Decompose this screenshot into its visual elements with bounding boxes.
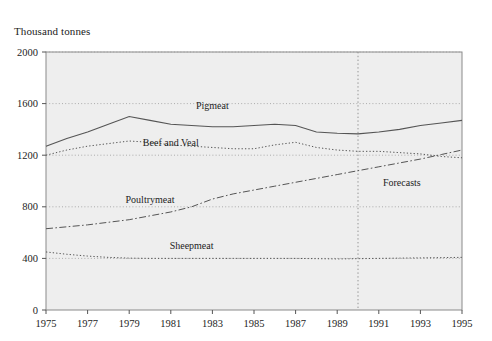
x-tick-label: 1985: [244, 318, 265, 329]
y-tick-label: 1200: [17, 150, 38, 161]
y-tick-label: 800: [22, 201, 38, 212]
x-tick-label: 1993: [410, 318, 431, 329]
x-tick-label: 1991: [368, 318, 389, 329]
series-label: Pigmeat: [196, 100, 229, 111]
x-tick-label: 1989: [327, 318, 348, 329]
series-label: Sheepmeat: [170, 240, 214, 251]
x-tick-label: 1979: [119, 318, 140, 329]
x-tick-label: 1995: [452, 318, 473, 329]
x-tick-label: 1987: [285, 318, 306, 329]
annotation-forecasts: Forecasts: [383, 177, 421, 188]
y-tick-label: 1600: [17, 98, 38, 109]
series-label: Poultrymeat: [126, 194, 175, 205]
y-tick-label: 2000: [17, 47, 38, 58]
line-chart-svg: 0400800120016002000 19751977197919811983…: [0, 0, 492, 341]
y-axis-ticks: 0400800120016002000: [17, 47, 46, 316]
y-tick-label: 400: [22, 253, 38, 264]
series-label: Beef and Veal: [143, 137, 199, 148]
x-tick-label: 1977: [77, 318, 98, 329]
x-tick-label: 1975: [36, 318, 57, 329]
chart-figure: Thousand tonnes 0400800120016002000 1975…: [0, 0, 492, 341]
annotations: Forecasts: [383, 177, 421, 188]
x-tick-label: 1983: [202, 318, 223, 329]
y-tick-label: 0: [33, 305, 38, 316]
x-tick-label: 1981: [160, 318, 181, 329]
x-axis-ticks: 1975197719791981198319851987198919911993…: [36, 310, 473, 329]
